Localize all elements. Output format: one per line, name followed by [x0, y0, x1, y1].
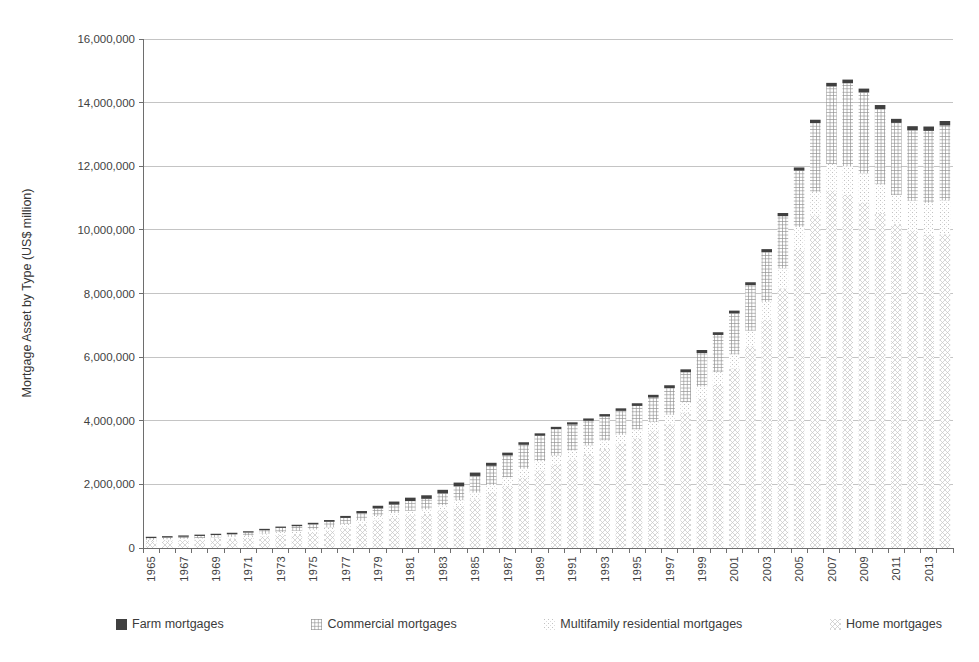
x-tick-label: 2011	[890, 556, 902, 581]
bar-segment	[243, 536, 254, 538]
bar-segment	[599, 440, 610, 449]
bar-segment	[227, 539, 238, 548]
bar-segment	[599, 414, 610, 416]
bar-1977	[340, 516, 351, 548]
x-tick-label: 1979	[372, 556, 384, 582]
bar-segment	[146, 541, 157, 548]
bar-segment	[745, 331, 756, 346]
x-axis-labels: 1965196719691971197319751977197919811983…	[145, 556, 935, 582]
bar-segment	[940, 121, 951, 125]
bar-segment	[680, 413, 691, 548]
bar-segment	[826, 83, 837, 87]
y-tick-label: 16,000,000	[77, 33, 135, 45]
bar-segment	[632, 429, 643, 438]
bar-segment	[486, 485, 497, 493]
bar-segment	[567, 450, 578, 459]
bar-1970	[227, 533, 238, 548]
bar-segment	[308, 523, 319, 525]
bar-segment	[211, 539, 222, 548]
bar-2009	[859, 89, 870, 548]
bar-segment	[713, 385, 724, 548]
bar-segment	[470, 473, 481, 476]
x-tick-label: 1975	[307, 556, 319, 582]
y-tick-label: 4,000,000	[84, 415, 135, 427]
bar-segment	[875, 109, 886, 184]
bar-1996	[648, 395, 659, 548]
bar-segment	[826, 164, 837, 191]
bar-segment	[664, 388, 675, 415]
bar-segment	[389, 513, 400, 518]
bar-segment	[826, 190, 837, 548]
bar-2014	[940, 121, 951, 548]
bar-segment	[940, 234, 951, 548]
bar-segment	[324, 531, 335, 548]
bar-segment	[178, 537, 189, 539]
bar-segment	[340, 524, 351, 528]
bar-segment	[535, 436, 546, 461]
bar-1981	[405, 498, 416, 548]
bar-segment	[923, 127, 934, 131]
bar-1967	[178, 535, 189, 548]
bar-segment	[680, 402, 691, 413]
bar-segment	[810, 215, 821, 548]
bar-segment	[340, 518, 351, 524]
bar-segment	[632, 406, 643, 430]
bar-segment	[308, 529, 319, 532]
bar-1972	[259, 529, 270, 548]
bar-segment	[437, 490, 448, 494]
bar-segment	[567, 459, 578, 548]
bar-segment	[194, 538, 205, 540]
bar-segment	[697, 398, 708, 548]
bar-segment	[923, 131, 934, 203]
legend-item-farm: Farm mortgages	[116, 617, 224, 631]
bar-1969	[211, 534, 222, 548]
bar-segment	[535, 461, 546, 470]
mortgage-stacked-bar-chart: 1965196719691971197319751977197919811983…	[0, 0, 979, 662]
legend-label-multifamily: Multifamily residential mortgages	[560, 617, 742, 631]
bar-segment	[356, 524, 367, 548]
bar-1990	[551, 427, 562, 548]
bar-segment	[697, 387, 708, 399]
x-tick-label: 1991	[566, 556, 578, 582]
y-tick-label: 2,000,000	[84, 478, 135, 490]
bar-segment	[146, 537, 157, 538]
bar-segment	[599, 417, 610, 441]
bar-1997	[664, 385, 675, 548]
bar-segment	[211, 534, 222, 535]
bar-1966	[162, 536, 173, 548]
home-swatch-icon	[830, 619, 841, 630]
bar-1973	[275, 527, 286, 548]
bar-1980	[389, 502, 400, 548]
x-tick-label: 1965	[145, 556, 157, 582]
bar-segment	[680, 372, 691, 402]
bar-segment	[648, 422, 659, 431]
x-tick-label: 1987	[502, 556, 514, 582]
bar-segment	[664, 385, 675, 388]
bar-2007	[826, 83, 837, 548]
bar-segment	[616, 435, 627, 444]
bar-1985	[470, 473, 481, 548]
bar-segment	[599, 449, 610, 548]
bar-segment	[454, 486, 465, 500]
bar-segment	[859, 92, 870, 173]
bar-segment	[405, 501, 416, 511]
bar-segment	[373, 516, 384, 520]
bar-segment	[211, 535, 222, 537]
bar-segment	[275, 535, 286, 548]
x-tick-label: 1969	[210, 556, 222, 582]
bar-segment	[891, 195, 902, 224]
bar-segment	[356, 511, 367, 513]
bar-segment	[745, 282, 756, 285]
bar-2008	[842, 80, 853, 548]
bar-segment	[454, 483, 465, 487]
bar-segment	[275, 532, 286, 535]
bar-segment	[875, 105, 886, 109]
bar-1983	[437, 490, 448, 548]
bar-segment	[308, 524, 319, 529]
bar-segment	[859, 202, 870, 548]
bar-2013	[923, 127, 934, 548]
bar-1979	[373, 506, 384, 548]
bar-segment	[486, 466, 497, 485]
bar-segment	[891, 224, 902, 548]
bar-segment	[551, 427, 562, 429]
